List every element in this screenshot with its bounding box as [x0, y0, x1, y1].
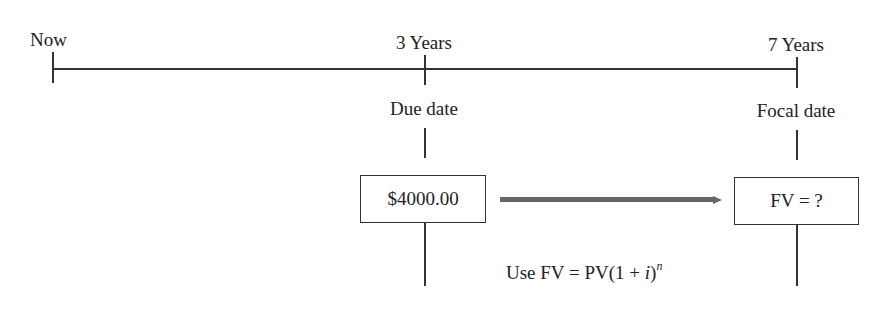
label-now: Now: [30, 30, 67, 49]
tick-7-years: [796, 57, 798, 88]
formula-text: Use FV = PV(1 + i)n: [506, 262, 662, 284]
arrow-shaft: [500, 197, 714, 202]
label-3-years: 3 Years: [396, 33, 452, 52]
connector-due-date: [424, 128, 426, 158]
drop-line-present: [424, 223, 426, 286]
connector-focal-date: [796, 130, 798, 160]
drop-line-future: [796, 225, 798, 286]
label-7-years: 7 Years: [768, 35, 824, 54]
future-value-text: FV = ?: [770, 190, 823, 212]
tick-now: [52, 52, 54, 83]
future-value-box: FV = ?: [734, 177, 859, 225]
formula-prefix: Use FV = PV(1 +: [506, 262, 645, 283]
present-value-text: $4000.00: [387, 188, 458, 210]
tick-3-years: [424, 55, 426, 85]
formula-exponent: n: [656, 259, 662, 273]
present-value-box: $4000.00: [360, 175, 486, 223]
label-focal-date: Focal date: [757, 101, 836, 120]
arrow-right-icon: [713, 196, 722, 204]
label-due-date: Due date: [390, 99, 458, 118]
